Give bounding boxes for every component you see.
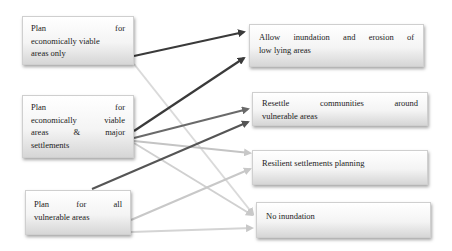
node-text-line: Plan for [31,22,125,35]
node-text-line: areas & major [31,126,125,139]
node-plan-economically-viable-and-settlements: Plan for economically viable areas & maj… [22,95,134,158]
node-text-line: vulnerable areas [262,110,418,123]
arrow-l1-to-r1 [134,32,244,56]
node-text-line: economically viable [31,114,125,127]
node-text-line: settlements [31,139,125,152]
node-allow-inundation: Allow inundation and erosion of low lyin… [249,24,424,67]
node-text-line: No inundation [266,210,421,223]
arrow-l3-to-r4 [131,228,252,232]
node-text-line: areas only [31,47,125,60]
arrow-l2-to-r2 [134,109,248,138]
node-text-line: Resettle communities around [262,97,418,110]
node-no-inundation: No inundation [256,202,431,238]
arrow-l2-to-r1 [134,58,244,131]
node-resilient-settlements: Resilient settlements planning [252,150,428,185]
node-text-line: Resilient settlements planning [262,157,418,170]
node-text-line: Allow inundation and erosion of [259,31,414,44]
node-text-line: vulnerable areas [34,211,122,224]
node-text-line: low lying areas [259,44,414,57]
node-text-line: Plan for all [34,198,122,211]
node-plan-economically-viable-only: Plan for economically viable areas only [22,16,134,65]
node-text-line: economically viable [31,35,125,48]
node-plan-all-vulnerable: Plan for all vulnerable areas [25,190,131,235]
node-text-line: Plan for [31,101,125,114]
node-resettle-communities: Resettle communities around vulnerable a… [252,92,428,126]
arrow-l2-to-r4 [134,143,252,215]
arrow-l1-to-r4 [134,64,253,214]
